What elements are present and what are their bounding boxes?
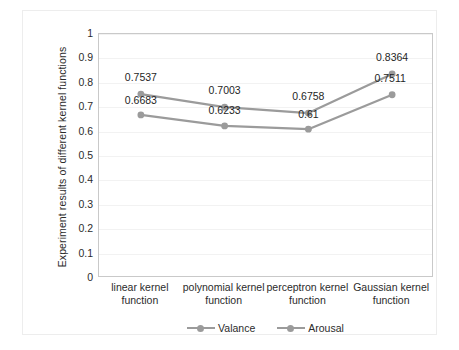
legend-marker-icon [277,323,305,333]
x-category-label-line: perceptron kernel [266,281,350,294]
x-category-label-line: Gaussian kernel [349,281,433,294]
y-tick-label: 0 [63,272,93,283]
x-category-label: linear kernelfunction [98,281,182,315]
x-category-label-line: polynomial kernel [182,281,266,294]
x-category-label: perceptron kernelfunction [266,281,350,315]
y-tick-label: 0.9 [63,52,93,63]
y-tick-label: 0.5 [63,150,93,161]
y-tick-label: 0.3 [63,199,93,210]
legend-marker-icon [187,323,215,333]
chart-outer-frame: Experiment results of different kernel f… [22,10,437,335]
x-axis-category-labels: linear kernelfunctionpolynomial kernelfu… [98,281,433,315]
legend-label: Valance [218,322,255,334]
data-label: 0.8364 [376,52,408,63]
x-category-label-line: function [349,294,433,307]
data-label: 0.6683 [125,95,157,106]
data-label: 0.7003 [209,85,241,96]
data-label: 0.6758 [292,91,324,102]
series-line [141,74,392,113]
legend-item-valance[interactable]: Valance [187,322,255,334]
data-label: 0.61 [298,109,318,120]
data-point-marker [305,126,312,133]
plot-area: 0.75370.70030.67580.83640.66830.62330.61… [98,33,433,277]
data-label: 0.7537 [125,72,157,83]
data-label: 0.7511 [374,72,405,83]
data-point-marker [389,91,396,98]
data-label: 0.6233 [209,105,241,116]
y-tick-label: 0.8 [63,77,93,88]
y-tick-label: 0.1 [63,247,93,258]
x-category-label-line: linear kernel [98,281,182,294]
y-tick-label: 0.6 [63,125,93,136]
chart-legend: ValanceArousal [98,319,433,337]
y-tick-label: 1 [63,28,93,39]
x-category-label-line: function [98,294,182,307]
chart-figure: Experiment results of different kernel f… [0,0,459,350]
x-category-label: Gaussian kernelfunction [349,281,433,315]
legend-label: Arousal [308,322,344,334]
y-tick-label: 0.2 [63,223,93,234]
legend-item-arousal[interactable]: Arousal [277,322,344,334]
y-tick-label: 0.7 [63,101,93,112]
y-axis-tick-labels: 00.10.20.30.40.50.60.70.80.91 [61,33,93,277]
x-category-label-line: function [182,294,266,307]
data-point-marker [221,123,228,130]
data-point-marker [137,112,144,119]
y-tick-label: 0.4 [63,174,93,185]
x-category-label: polynomial kernelfunction [182,281,266,315]
x-category-label-line: function [266,294,350,307]
